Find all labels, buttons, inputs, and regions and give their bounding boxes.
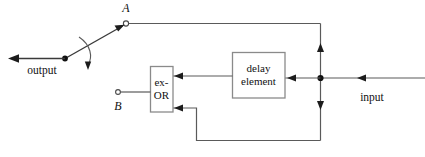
arrowhead-input [357,75,366,82]
delay-label-line1: delay [247,62,271,74]
ex-or-label-line2: OR [154,89,170,101]
label-node-a: A [121,1,130,15]
wire-feedback-loop [173,108,321,141]
label-input: input [360,91,384,104]
label-node-b: B [114,99,122,113]
arrowhead-exor-in-top [174,73,183,80]
ex-or-label-line1: ex- [154,76,168,88]
delay-label-line2: element [241,75,276,87]
arrowhead-rotation [85,62,91,71]
arrowhead-exor-in-bottom [174,105,183,112]
terminal-a[interactable] [123,21,128,26]
arrowhead-output [8,54,19,62]
terminal-b[interactable] [116,90,121,95]
switch-blade[interactable] [66,26,123,58]
circuit-diagram: A B output input ex- OR delay element [0,0,425,157]
arrowhead-bus-up [317,43,324,52]
circuit-svg: A B output input ex- OR delay element [0,0,425,157]
arrowhead-switch-blade [115,25,125,32]
arrowhead-bus-down [317,101,324,110]
switch-rotation-arc [79,37,91,65]
arrowhead-delay-in [287,75,296,82]
label-output: output [27,64,57,77]
